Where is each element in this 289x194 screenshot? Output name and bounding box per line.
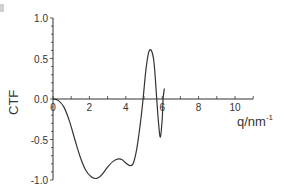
ctf-chart: 1.00.50.0-0.5-1.0 0246810 CTF q/nm-1 — [0, 0, 289, 194]
y-tick-label: 0.0 — [34, 94, 48, 105]
x-axis: 0246810 — [50, 96, 253, 113]
x-axis-label-text: q/nm — [237, 114, 266, 129]
x-axis-label-superscript: -1 — [266, 113, 274, 122]
y-axis-label: CTF — [6, 90, 21, 115]
y-tick-label: -0.5 — [31, 135, 49, 146]
y-axis: 1.00.50.0-0.5-1.0 — [31, 13, 53, 186]
x-tick-label: 10 — [229, 102, 241, 113]
x-tick-label: 4 — [123, 102, 129, 113]
x-axis-label: q/nm-1 — [237, 113, 274, 129]
ctf-curve — [53, 50, 164, 179]
y-tick-label: -1.0 — [31, 175, 49, 186]
x-tick-label: 2 — [87, 102, 93, 113]
y-tick-label: 1.0 — [34, 13, 48, 24]
y-tick-label: 0.5 — [34, 54, 48, 65]
x-tick-label: 8 — [196, 102, 202, 113]
x-tick-label: 0 — [50, 102, 56, 113]
